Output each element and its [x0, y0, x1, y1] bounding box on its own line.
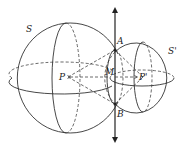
label-b: B: [116, 109, 124, 119]
label-p: P: [58, 72, 66, 82]
label-a: A: [116, 36, 124, 46]
label-s: S: [26, 24, 32, 34]
label-m: M: [104, 67, 115, 77]
label-s-prime: S': [168, 46, 177, 56]
point-b-dot: [114, 103, 117, 106]
label-p-prime: P': [138, 72, 148, 82]
two-spheres-diagram: S S' A B M P P': [0, 0, 186, 146]
point-a-dot: [114, 49, 117, 52]
